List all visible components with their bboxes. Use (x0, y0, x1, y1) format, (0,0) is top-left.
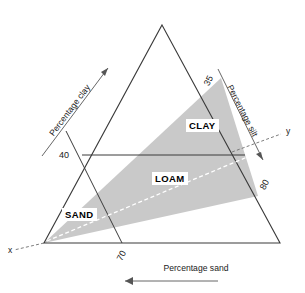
soil-texture-triangle-figure: 40 35 80 70 Percentage clay Percentage s… (0, 0, 305, 293)
tick-label-silt-35: 35 (202, 74, 216, 88)
region-label-clay: CLAY (186, 119, 219, 132)
x-corner-dashed-line (14, 243, 44, 250)
region-label-loam: LOAM (152, 172, 188, 185)
sand-axis-arrowhead (125, 277, 133, 285)
tick-label-sand-70: 70 (115, 249, 129, 263)
corner-marker-x: x (8, 245, 13, 255)
tick-label-silt-80: 80 (258, 178, 272, 192)
silt-axis-arrowhead (256, 152, 263, 160)
corner-marker-y: y (286, 126, 291, 136)
ternary-diagram-svg: 40 35 80 70 Percentage clay Percentage s… (0, 0, 305, 293)
tick-label-clay-40: 40 (59, 150, 69, 160)
axis-title-clay: Percentage clay (47, 82, 92, 138)
axis-title-sand: Percentage sand (164, 263, 229, 273)
region-label-sand: SAND (62, 208, 97, 221)
clay-axis-arrowhead (101, 68, 108, 76)
